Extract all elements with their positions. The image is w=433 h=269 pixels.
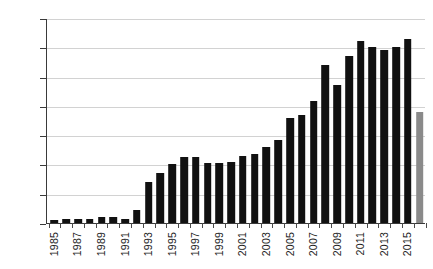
x-tickmark-2012 <box>367 223 368 228</box>
x-tickmark-1985 <box>49 223 50 228</box>
x-tickmark-2014 <box>390 223 391 228</box>
x-tickmark-1987 <box>72 223 73 228</box>
bar-slot <box>308 19 320 223</box>
x-tick-label-2001: 2001 <box>236 232 248 256</box>
bar-1990 <box>110 217 118 223</box>
bar-slot <box>131 19 143 223</box>
bar-slot <box>378 19 390 223</box>
bar-1991 <box>121 219 129 223</box>
x-tick-label-2015: 2015 <box>401 232 413 256</box>
x-tickmark-1996 <box>178 223 179 228</box>
x-tickmark-2010 <box>343 223 344 228</box>
x-tickmark-2001 <box>237 223 238 228</box>
x-tick-label-1997: 1997 <box>189 232 201 256</box>
bar-2000 <box>227 162 235 224</box>
x-tickmark-2005 <box>284 223 285 228</box>
x-tickmark-2013 <box>378 223 379 228</box>
bar-1993 <box>145 182 153 223</box>
bar-slot <box>60 19 72 223</box>
bar-1995 <box>168 164 176 223</box>
bar-slot <box>367 19 379 223</box>
bar-1999 <box>216 163 224 223</box>
bar-slot <box>202 19 214 223</box>
bar-slot <box>84 19 96 223</box>
bar-slot <box>284 19 296 223</box>
x-tickmark-2006 <box>296 223 297 228</box>
bar-2001 <box>239 156 247 223</box>
bar-slot <box>96 19 108 223</box>
x-tick-label-2013: 2013 <box>378 232 390 256</box>
x-tickmark-2011 <box>355 223 356 228</box>
x-tickmark-2007 <box>308 223 309 228</box>
bar-1985 <box>51 220 59 223</box>
x-tick-label-2007: 2007 <box>307 232 319 256</box>
bar-slot <box>155 19 167 223</box>
bar-slot <box>390 19 402 223</box>
x-tickmark-1999 <box>213 223 214 228</box>
x-tickmark-1991 <box>119 223 120 228</box>
bar-2012 <box>369 47 377 223</box>
x-tickmark-2000 <box>225 223 226 228</box>
bar-2004 <box>274 140 282 223</box>
bar-slot <box>355 19 367 223</box>
bar-1997 <box>192 157 200 223</box>
x-tickmark-2009 <box>331 223 332 228</box>
bar-2015 <box>404 39 412 224</box>
bar-1992 <box>133 210 141 223</box>
x-tickmark-1998 <box>202 223 203 228</box>
x-tick-label-2011: 2011 <box>354 232 366 255</box>
x-tickmark-2002 <box>249 223 250 228</box>
x-tickmark-1989 <box>96 223 97 228</box>
x-tick-label-1991: 1991 <box>119 232 131 256</box>
x-tickmark-1993 <box>143 223 144 228</box>
x-tickmark-1992 <box>131 223 132 228</box>
bar-2016 <box>416 112 424 223</box>
bar-2008 <box>322 65 330 223</box>
x-tickmark-1986 <box>60 223 61 228</box>
bar-2009 <box>333 85 341 223</box>
bar-1994 <box>157 173 165 223</box>
x-tickmark-1995 <box>166 223 167 228</box>
x-tickmark-2008 <box>319 223 320 228</box>
bar-1986 <box>62 219 70 223</box>
bar-slot <box>319 19 331 223</box>
x-tickmark-2015 <box>402 223 403 228</box>
bar-2010 <box>345 56 353 223</box>
bar-slot <box>119 19 131 223</box>
x-tick-label-2003: 2003 <box>260 232 272 256</box>
x-tickmark-2016 <box>414 223 415 228</box>
bar-slot <box>296 19 308 223</box>
bar-slot <box>190 19 202 223</box>
x-tickmark-2003 <box>261 223 262 228</box>
bar-slot <box>72 19 84 223</box>
bar-slot <box>143 19 155 223</box>
x-tick-label-2005: 2005 <box>284 232 296 256</box>
x-tickmark-1997 <box>190 223 191 228</box>
bar-slot <box>213 19 225 223</box>
bar-1996 <box>180 157 188 223</box>
y-tickmark-0 <box>40 224 46 225</box>
bar-slot <box>166 19 178 223</box>
bar-series <box>49 19 426 223</box>
bar-2003 <box>263 147 271 223</box>
bar-slot <box>272 19 284 223</box>
bar-2002 <box>251 154 259 223</box>
x-tick-label-2009: 2009 <box>331 232 343 256</box>
plot-area <box>46 19 425 224</box>
x-tick-label-1995: 1995 <box>166 232 178 256</box>
x-tick-label-1985: 1985 <box>48 232 60 256</box>
bar-2013 <box>380 50 388 223</box>
bar-slot <box>414 19 426 223</box>
bar-slot <box>331 19 343 223</box>
x-tick-label-1993: 1993 <box>142 232 154 256</box>
bar-slot <box>343 19 355 223</box>
bar-slot <box>402 19 414 223</box>
x-tick-label-1999: 1999 <box>213 232 225 256</box>
bar-slot <box>237 19 249 223</box>
x-tick-label-1989: 1989 <box>95 232 107 256</box>
bar-slot <box>261 19 273 223</box>
bar-1989 <box>98 217 106 223</box>
bar-1988 <box>86 219 94 223</box>
bar-2014 <box>392 47 400 223</box>
bar-1998 <box>204 163 212 223</box>
